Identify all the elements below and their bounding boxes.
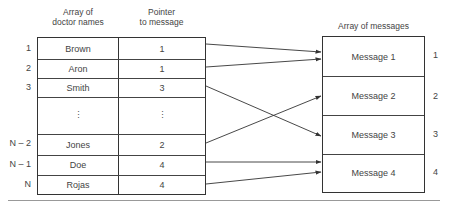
bottom-rule <box>8 200 440 201</box>
arrow-smith-to-message-3 <box>206 86 321 136</box>
arrow-jones-to-message-2 <box>206 96 321 143</box>
arrow-rojas-to-message-4 <box>206 172 321 184</box>
arrow-aron-to-message-1 <box>206 59 321 67</box>
pointer-arrows <box>0 0 450 210</box>
arrow-brown-to-message-1 <box>206 44 321 52</box>
